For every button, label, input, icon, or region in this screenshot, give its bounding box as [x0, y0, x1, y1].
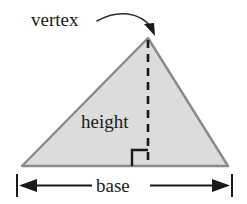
vertex-arrowhead-icon [144, 23, 155, 36]
base-left-arrowhead-icon [19, 179, 37, 192]
vertex-arrow-curve [97, 14, 152, 28]
height-label: height [81, 112, 129, 131]
triangle-shape [22, 38, 228, 166]
diagram-canvas [0, 0, 247, 204]
base-label: base [96, 176, 130, 195]
base-right-arrowhead-icon [212, 179, 230, 192]
vertex-label: vertex [31, 10, 78, 29]
triangle-diagram: vertex height base [0, 0, 247, 204]
